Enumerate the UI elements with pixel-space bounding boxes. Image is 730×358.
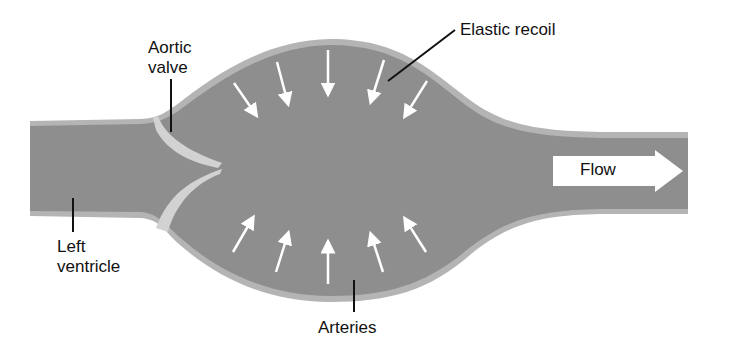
aortic-valve-label: Aortic valve xyxy=(148,38,191,78)
left-ventricle-label: Left ventricle xyxy=(57,237,120,277)
flow-label: Flow xyxy=(580,160,616,180)
elastic-recoil-label: Elastic recoil xyxy=(460,20,555,40)
aortic-valve-label-line1: Aortic xyxy=(148,38,191,58)
vessel-illustration xyxy=(0,0,730,358)
aortic-recoil-diagram: Aortic valve Elastic recoil Left ventric… xyxy=(0,0,730,358)
left-ventricle-label-line1: Left xyxy=(57,237,120,257)
aortic-valve-label-line2: valve xyxy=(148,58,191,78)
left-ventricle-label-line2: ventricle xyxy=(57,257,120,277)
arteries-label: Arteries xyxy=(318,318,377,338)
